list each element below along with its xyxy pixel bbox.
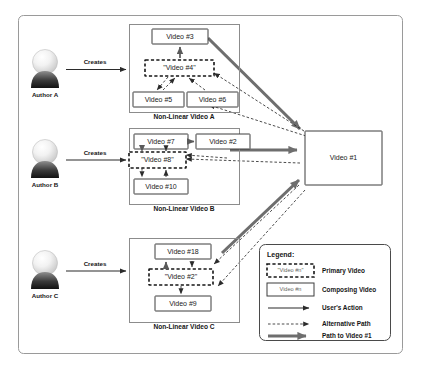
dashed-edge-video2b-to-video8 [186,155,227,158]
edge-video4-to-video5 [157,77,168,90]
legend-primary-video-label: Primary Video [322,267,365,275]
author-b-action-label: Creates [84,149,107,156]
edge-video5-to-video4 [163,78,175,90]
author-c-label: Author C [32,292,59,299]
node-video-8-label: "Video #8" [141,156,174,163]
legend-users-action-label: User's Action [322,304,363,311]
author-a-body-icon [31,71,59,88]
thick-edge-video3-to-video1 [208,38,300,129]
node-video-1-label: Video #1 [330,154,358,161]
legend-primary-video-chip-label: "Video #n" [278,267,304,273]
legend-path-to-video1-label: Path to Video #1 [322,332,372,339]
node-video-2b-label: Video #2 [209,138,237,145]
legend-composing-video-label: Composing Video [322,286,376,294]
author-a-action-label: Creates [84,58,107,65]
author-b-body-icon [31,161,59,178]
author-b-head-icon [33,140,58,165]
legend-alternative-path-label: Alternative Path [322,320,371,327]
author-b-group: Author B Creates [31,140,126,189]
group-c-caption: Non-Linear Video C [153,323,214,330]
author-c-group: Author C Creates [31,251,126,300]
node-video-7-label: Video #7 [147,138,175,145]
author-a-head-icon [33,50,58,75]
node-video-18-label: Video #18 [167,248,199,255]
group-b-caption: Non-Linear Video B [153,205,214,212]
legend-composing-video-chip-label: Video #n [280,286,302,292]
hub-video-1-group: Video #1 [305,131,382,185]
legend-panel: Legend: "Video #n" Primary Video Video #… [260,245,391,341]
diagram-svg: Video #3 "Video #4" Video #5 Video #6 No… [0,0,421,374]
node-video-9-label: Video #9 [169,300,197,307]
node-video-2c-label: "Video #2" [165,273,198,280]
author-a-label: Author A [32,91,59,98]
author-a-group: Author A Creates [31,50,126,99]
node-video-3-label: Video #3 [166,33,194,40]
author-c-body-icon [31,272,59,289]
thick-edge-video18-to-video1 [222,180,299,253]
node-video-6-label: Video #6 [199,96,227,103]
author-c-head-icon [33,251,58,276]
author-b-label: Author B [32,181,59,188]
group-non-linear-video-a: Video #3 "Video #4" Video #5 Video #6 No… [130,25,240,121]
group-non-linear-video-b: Video #7 Video #2 "Video #8" Video #10 N… [129,129,250,213]
node-video-10-label: Video #10 [145,183,177,190]
node-video-4-label: "Video #4" [163,64,196,71]
author-c-action-label: Creates [84,260,107,267]
diagram-canvas: Video #3 "Video #4" Video #5 Video #6 No… [0,0,421,374]
node-video-5-label: Video #5 [145,96,173,103]
dashed-edge-video1-to-video8 [186,159,300,163]
edge-video6-to-video4 [189,78,205,90]
legend-title: Legend: [267,251,294,259]
group-a-caption: Non-Linear Video A [154,113,215,120]
